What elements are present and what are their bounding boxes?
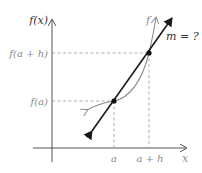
point-a-plus-h — [146, 50, 151, 55]
point-a — [111, 98, 116, 103]
f-a-label: f(a) — [30, 96, 49, 107]
a-label: a — [111, 153, 117, 164]
slope-label: m = ? — [166, 30, 199, 43]
y-axis-label: f(x) — [28, 14, 48, 27]
secant-line — [92, 18, 172, 131]
x-axis-label: x — [182, 152, 189, 165]
curve-f — [87, 18, 156, 110]
secant-diagram: f(x) x f m = ? f(a + h) f(a) a a + h — [0, 0, 202, 173]
curve-label: f — [145, 14, 152, 27]
a-plus-h-label: a + h — [136, 153, 163, 164]
f-a-plus-h-label: f(a + h) — [8, 48, 48, 59]
